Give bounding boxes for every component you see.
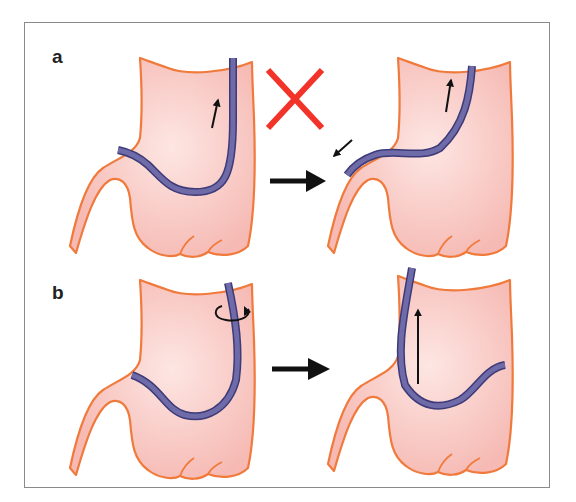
diagonal-arrow-icon: [334, 140, 352, 156]
endoscopy-diagram: [0, 0, 576, 502]
panel-b-stomach-left: [70, 280, 255, 479]
red-x-icon: [268, 70, 322, 128]
right-arrow-icon-a: [270, 170, 326, 192]
right-arrow-icon-b: [272, 358, 330, 380]
